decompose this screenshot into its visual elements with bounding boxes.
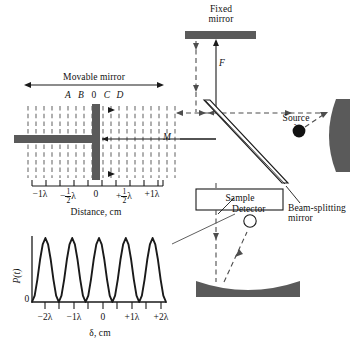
distance-axis [32, 180, 163, 186]
interferogram-x-ticks [45, 302, 161, 309]
distance-tick-+half-lambda: +12λ [116, 188, 132, 204]
interferogram-leader-line [172, 214, 235, 244]
beam-splitter-leader-line [286, 186, 300, 203]
path-F-label: F [219, 58, 225, 68]
detector-focusing-mirror[interactable] [196, 281, 300, 297]
path-M-label: M [163, 132, 171, 142]
distance-tick-unit-2: λ [127, 191, 132, 201]
mirror-position-A: A [65, 90, 71, 100]
mirror-position-D: D [117, 90, 124, 100]
source-collimating-mirror[interactable] [329, 99, 350, 172]
delta-tick-+2lambda: +2λ [153, 312, 168, 322]
delta-tick--1lambda: −1λ [66, 312, 81, 322]
beam-splitter-label: Beam-splitting mirror [288, 203, 346, 224]
delta-tick-0: 0 [101, 312, 106, 322]
source-label: Source λ [283, 113, 310, 134]
interferogram-plot [32, 236, 166, 309]
delta-tick-+1lambda: +1λ [124, 312, 139, 322]
movable-mirror-range-arrow-group [24, 82, 164, 88]
detector-label: Detector [232, 204, 266, 214]
movable-mirror-label: Movable mirror [63, 72, 125, 82]
distance-tick-0: 0 [94, 189, 99, 199]
power-symbol: P(t) [12, 268, 22, 283]
interferogram-y-zero: 0 [25, 294, 30, 304]
mirror-position-0: 0 [92, 90, 97, 100]
delta-axis-title: δ, cm [89, 328, 110, 338]
figure-canvas: Fixed mirror Movable mirror A B 0 C D F … [0, 0, 359, 344]
mirror-position-B: B [78, 90, 84, 100]
detector[interactable] [244, 215, 256, 227]
diagram-vector-layer [0, 0, 359, 344]
interferogram-y-axis-label: P(t) [12, 268, 22, 283]
fixed-mirror-label: Fixed mirror [209, 4, 234, 25]
fixed-mirror-label-line2: mirror [209, 14, 234, 24]
movable-mirror-plate[interactable] [92, 104, 100, 180]
fixed-mirror-label-line1: Fixed [210, 4, 232, 14]
movable-mirror-shaft[interactable] [14, 135, 93, 143]
distance-tick--1lambda: −1λ [32, 189, 47, 199]
beam-splitter-label-line2: mirror [288, 213, 313, 223]
distance-tick--half-lambda: −12λ [60, 188, 76, 204]
sample-label: Sample [225, 193, 254, 203]
distance-tick-+1lambda: +1λ [144, 189, 159, 199]
distance-axis-title: Distance, cm [71, 207, 122, 217]
source-label-text: Source [283, 113, 310, 123]
fixed-mirror[interactable] [185, 31, 256, 39]
interferogram-curve [32, 238, 166, 302]
beam-splitter-label-line1: Beam-splitting [288, 203, 346, 213]
source-wavelength-symbol: λ [294, 123, 299, 133]
delta-tick--2lambda: −2λ [37, 312, 52, 322]
mirror-position-C: C [104, 90, 110, 100]
beam-arrow-left [176, 110, 183, 116]
distance-tick-unit: λ [71, 191, 76, 201]
